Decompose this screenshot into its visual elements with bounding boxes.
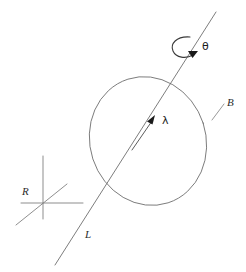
physics-diagram: B L λ θ R <box>0 0 246 272</box>
vector-arrow-icon <box>132 115 155 150</box>
figure-canvas: B L λ θ R <box>0 0 246 272</box>
label-body-B: B <box>227 96 234 108</box>
label-frame-R: R <box>21 185 29 197</box>
label-spin-lambda: λ <box>162 114 169 127</box>
axis-line-L <box>55 12 216 265</box>
circle-body-icon <box>73 61 223 220</box>
label-angle-theta: θ <box>202 40 209 53</box>
label-axis-L: L <box>84 228 91 240</box>
leader-line-icon <box>212 104 224 120</box>
curved-rotation-arrow-icon <box>172 37 198 58</box>
